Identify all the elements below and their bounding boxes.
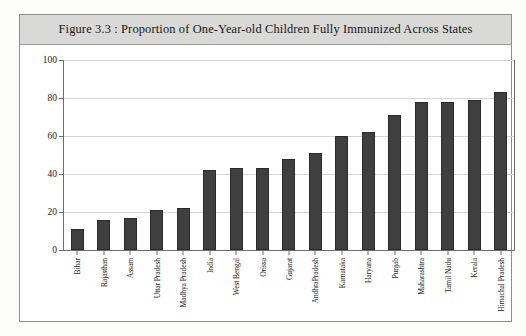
- page-title: Figure 3.3 : Proportion of One-Year-old …: [59, 22, 473, 37]
- x-tick-mark: [500, 250, 501, 255]
- bar-andhrapradesh[interactable]: [309, 153, 322, 250]
- y-tick-mark-0: [59, 250, 64, 251]
- x-axis-label-gujarat: Gujarat: [284, 258, 293, 280]
- bar-bihar[interactable]: [71, 229, 84, 250]
- x-axis-label-madhya-pradesh: Madhya Pradesh: [179, 258, 188, 307]
- bar-slot: Himachal Pradesh: [488, 60, 514, 250]
- x-tick-mark: [394, 250, 395, 255]
- x-axis-label-india: India: [205, 258, 214, 273]
- y-tick-label-60: 60: [48, 131, 58, 141]
- x-tick-mark: [130, 250, 131, 255]
- bar-slot: West Bengal: [223, 60, 249, 250]
- x-axis-label-rajasthan: Rajasthan: [99, 258, 108, 287]
- figure-frame: Figure 3.3 : Proportion of One-Year-old …: [19, 14, 512, 322]
- right-axis-line: [514, 60, 515, 250]
- bar-himachal-pradesh[interactable]: [494, 92, 507, 250]
- x-axis-label-himachal-pradesh: Himachal Pradesh: [496, 258, 505, 312]
- x-axis-label-tamil-nadu: Tamil Nadu: [443, 258, 452, 293]
- bar-tamil-nadu[interactable]: [441, 102, 454, 250]
- bar-slot: Punjab: [382, 60, 408, 250]
- x-axis-label-punjab: Punjab: [390, 258, 399, 279]
- bar-slot: Kerala: [461, 60, 487, 250]
- bar-slot: Gujarat: [276, 60, 302, 250]
- x-tick-mark: [474, 250, 475, 255]
- x-tick-mark: [77, 250, 78, 255]
- chart-plot: 020406080100 BiharRajasthanAssamUttar Pr…: [64, 60, 514, 250]
- x-axis-label-assam: Assam: [126, 258, 135, 278]
- bar-slot: Haryana: [355, 60, 381, 250]
- bar-madhya-pradesh[interactable]: [177, 208, 190, 250]
- bar-slot: AndhraPradesh: [302, 60, 328, 250]
- y-tick-label-100: 100: [43, 55, 57, 65]
- bar-slot: India: [196, 60, 222, 250]
- x-tick-mark: [103, 250, 104, 255]
- bar-india[interactable]: [203, 170, 216, 250]
- x-tick-mark: [341, 250, 342, 255]
- bar-slot: Madhya Pradesh: [170, 60, 196, 250]
- bar-slot: Karnataka: [329, 60, 355, 250]
- x-tick-mark: [236, 250, 237, 255]
- bar-rajasthan[interactable]: [97, 220, 110, 250]
- bar-slot: Maharashtra: [408, 60, 434, 250]
- x-tick-mark: [156, 250, 157, 255]
- x-axis-label-haryana: Haryana: [364, 258, 373, 283]
- bar-slot: Rajasthan: [90, 60, 116, 250]
- x-axis-label-orissa: Orissa: [258, 258, 267, 277]
- bar-slot: Uttar Pradesh: [143, 60, 169, 250]
- x-axis-label-bihar: Bihar: [73, 258, 82, 274]
- x-axis-label-west-bengal: West Bengal: [232, 258, 241, 295]
- bar-punjab[interactable]: [388, 115, 401, 250]
- bar-assam[interactable]: [124, 218, 137, 250]
- bar-slot: Assam: [117, 60, 143, 250]
- bar-karnataka[interactable]: [335, 136, 348, 250]
- x-axis-label-kerala: Kerala: [470, 258, 479, 278]
- x-tick-mark: [183, 250, 184, 255]
- x-axis-label-maharashtra: Maharashtra: [417, 258, 426, 295]
- x-axis-label-karnataka: Karnataka: [337, 258, 346, 288]
- x-tick-mark: [315, 250, 316, 255]
- bar-orissa[interactable]: [256, 168, 269, 250]
- y-tick-label-20: 20: [48, 207, 58, 217]
- bar-series: BiharRajasthanAssamUttar PradeshMadhya P…: [64, 60, 514, 250]
- bar-slot: Orissa: [249, 60, 275, 250]
- y-tick-label-0: 0: [52, 245, 57, 255]
- x-tick-mark: [262, 250, 263, 255]
- x-axis-label-andhrapradesh: AndhraPradesh: [311, 258, 320, 304]
- bar-uttar-pradesh[interactable]: [150, 210, 163, 250]
- x-tick-mark: [368, 250, 369, 255]
- bar-haryana[interactable]: [362, 132, 375, 250]
- x-tick-mark: [447, 250, 448, 255]
- x-tick-mark: [288, 250, 289, 255]
- bar-west-bengal[interactable]: [230, 168, 243, 250]
- x-tick-mark: [421, 250, 422, 255]
- bar-gujarat[interactable]: [282, 159, 295, 250]
- x-tick-mark: [209, 250, 210, 255]
- y-tick-label-80: 80: [48, 93, 58, 103]
- bar-kerala[interactable]: [468, 100, 481, 250]
- bar-slot: Bihar: [64, 60, 90, 250]
- figure-title-band: Figure 3.3 : Proportion of One-Year-old …: [20, 15, 511, 45]
- plot-area: 020406080100 BiharRajasthanAssamUttar Pr…: [20, 46, 511, 321]
- bar-slot: Tamil Nadu: [435, 60, 461, 250]
- bar-maharashtra[interactable]: [415, 102, 428, 250]
- y-tick-label-40: 40: [48, 169, 58, 179]
- x-axis-label-uttar-pradesh: Uttar Pradesh: [152, 258, 161, 298]
